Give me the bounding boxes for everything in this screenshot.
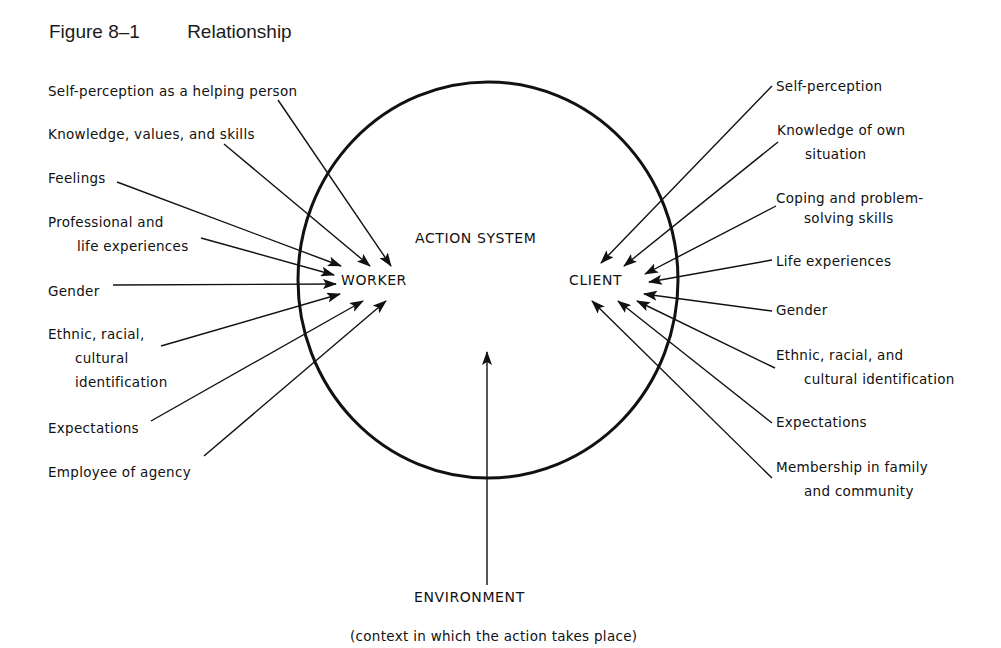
- arrow-knowledge-own-situation: [624, 142, 778, 266]
- client-input-expectations: Expectations: [776, 410, 867, 434]
- worker-input-gender: Gender: [48, 279, 100, 303]
- arrow-expectations-worker: [151, 301, 363, 421]
- arrow-coping-skills: [645, 206, 776, 274]
- arrow-ethnic-worker: [161, 294, 340, 346]
- worker-input-employee: Employee of agency: [48, 460, 191, 484]
- client-input-coping: Coping and problem- solving skills: [776, 186, 924, 230]
- client-label: CLIENT: [569, 272, 622, 288]
- arrow-gender-client: [644, 294, 772, 311]
- environment-label: ENVIRONMENT: [414, 589, 525, 605]
- arrow-self-perception-helping: [278, 100, 391, 266]
- worker-input-feelings: Feelings: [48, 166, 106, 190]
- worker-input-professional-experience: Professional and life experiences: [48, 210, 189, 258]
- arrow-expectations-client: [618, 301, 772, 423]
- arrow-membership-family: [592, 301, 772, 478]
- arrow-ethnic-client: [637, 301, 775, 368]
- client-input-membership: Membership in family and community: [776, 455, 928, 503]
- worker-input-knowledge: Knowledge, values, and skills: [48, 122, 255, 146]
- arrow-knowledge-values-skills: [224, 144, 370, 266]
- worker-input-expectations: Expectations: [48, 416, 139, 440]
- worker-label: WORKER: [341, 272, 407, 288]
- client-input-ethnic: Ethnic, racial, and cultural identificat…: [776, 343, 955, 391]
- client-input-gender: Gender: [776, 298, 828, 322]
- action-system-label: ACTION SYSTEM: [415, 230, 536, 246]
- arrow-life-experiences: [649, 260, 772, 282]
- client-input-self-perception: Self-perception: [776, 74, 882, 98]
- arrow-gender-worker: [113, 284, 336, 285]
- worker-input-ethnic: Ethnic, racial, cultural identification: [48, 322, 167, 394]
- arrow-self-perception-client: [601, 86, 772, 263]
- client-input-life-experiences: Life experiences: [776, 249, 891, 273]
- client-input-knowledge-situation: Knowledge of own situation: [777, 118, 905, 166]
- arrow-employee-agency: [204, 301, 386, 456]
- environment-caption: (context in which the action takes place…: [350, 628, 637, 644]
- worker-input-self-perception: Self-perception as a helping person: [48, 79, 297, 103]
